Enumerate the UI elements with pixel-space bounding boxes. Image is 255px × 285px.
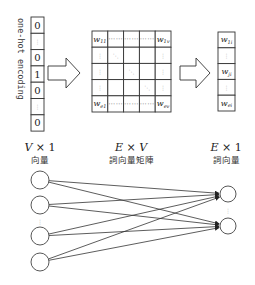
hdots: ⋯⋯: [140, 100, 155, 108]
onehot-value: 0: [34, 85, 40, 96]
network-nodes: ⋮⋮: [31, 171, 236, 271]
dimension-label: E × 1: [209, 141, 241, 154]
dimension-label: V × 1: [24, 141, 55, 154]
hdots: ⋯⋯: [124, 35, 139, 43]
input-node: [31, 171, 49, 189]
output-ellipsis: ⋮: [225, 207, 231, 214]
hdots: ⋯⋯: [108, 100, 123, 108]
onehot-vector: 0⋮010⋮0: [31, 17, 44, 131]
output-node: [220, 186, 236, 202]
input-node: [31, 196, 49, 214]
dimension-label: E × V: [114, 141, 148, 154]
vdots: ⋮: [160, 52, 166, 59]
caption-label: 向量: [31, 155, 49, 165]
vdots: ⋮: [160, 68, 166, 75]
hdots: ⋯⋯: [108, 35, 123, 43]
matrix-cell: [108, 80, 124, 96]
onehot-value: ⋮: [35, 38, 41, 45]
onehot-value: 0: [34, 117, 40, 128]
matrix-cell: [139, 47, 155, 63]
matrix-cell: [108, 63, 124, 79]
vdots: ⋮: [224, 52, 230, 59]
caption-label: 詞向量矩陣: [109, 155, 154, 165]
onehot-value: ⋮: [35, 103, 41, 110]
input-node: [31, 227, 49, 245]
output-node: [220, 218, 236, 234]
input-node: [31, 253, 49, 271]
ddots: ⋱: [113, 52, 119, 59]
arrow-right-icon: [180, 58, 210, 88]
captions: V × 1向量E × V詞向量矩陣E × 1詞向量: [24, 141, 241, 165]
network-edge: [49, 181, 219, 194]
onehot-label: one-hot encoding: [16, 18, 26, 100]
ddots: ⋱: [129, 68, 135, 75]
vdots: ⋮: [97, 68, 103, 75]
onehot-value: 0: [34, 20, 40, 31]
hdots: ⋯⋯: [140, 35, 155, 43]
caption-label: 詞向量: [213, 155, 240, 165]
vdots: ⋮: [224, 84, 230, 91]
vdots: ⋮: [97, 84, 103, 91]
hdots: ⋯⋯: [124, 100, 139, 108]
matrix-cell: [124, 47, 140, 63]
vdots: ⋮: [160, 84, 166, 91]
vdots: ⋮: [97, 52, 103, 59]
diagram-canvas: one-hot encoding 0⋮010⋮0 w11⋯⋯⋯⋯⋯⋯w1v⋮⋱⋮…: [0, 0, 255, 285]
network-edges: [48, 181, 219, 261]
onehot-value: 0: [34, 52, 40, 63]
network-edge: [49, 206, 219, 225]
matrix-cell: [124, 80, 140, 96]
arrow-right-icon: [48, 58, 80, 88]
word-vector: w1i⋮wji⋮wei: [218, 32, 235, 111]
matrix-cell: [139, 63, 155, 79]
ddots: ⋱: [144, 84, 150, 91]
embedding-matrix: w11⋯⋯⋯⋯⋯⋯w1v⋮⋱⋮⋮⋱⋮⋮⋱⋮we1⋯⋯⋯⋯⋯⋯wev: [92, 31, 171, 112]
input-ellipsis: ⋮: [37, 218, 43, 225]
network-edge: [49, 228, 219, 261]
onehot-value: 1: [34, 69, 40, 80]
